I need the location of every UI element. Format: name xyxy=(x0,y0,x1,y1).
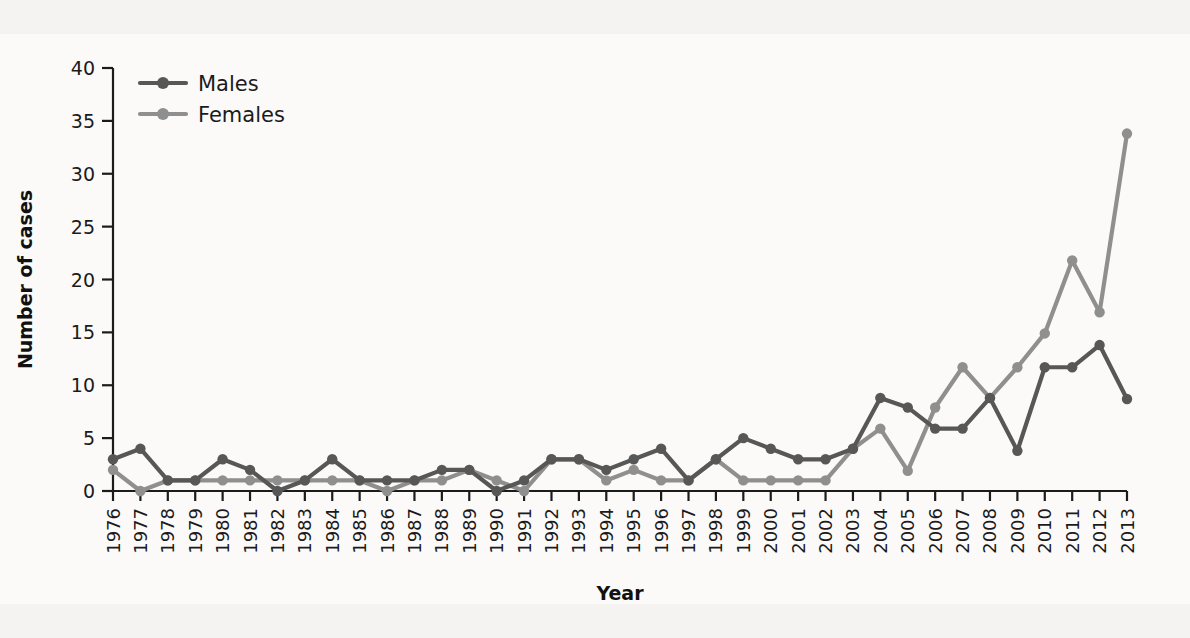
data-point xyxy=(1040,328,1050,338)
legend-entry-females[interactable]: Females xyxy=(140,103,285,127)
x-tick-label: 2000 xyxy=(760,508,781,554)
data-point xyxy=(327,454,337,464)
x-axis-title: Year xyxy=(595,582,644,604)
data-point xyxy=(272,486,282,496)
x-tick-label: 1986 xyxy=(377,508,398,554)
data-point xyxy=(656,475,666,485)
data-point xyxy=(437,465,447,475)
data-point xyxy=(546,454,556,464)
x-tick-label: 1980 xyxy=(212,508,233,554)
data-point xyxy=(848,444,858,454)
data-point xyxy=(601,465,611,475)
x-tick-label: 1994 xyxy=(596,508,617,554)
x-tick-label: 2012 xyxy=(1089,508,1110,554)
x-tick-label: 1990 xyxy=(486,508,507,554)
y-tick-label: 0 xyxy=(83,480,95,502)
data-point xyxy=(437,475,447,485)
x-tick-label: 2011 xyxy=(1062,508,1083,554)
data-point xyxy=(793,454,803,464)
y-axis-title: Number of cases xyxy=(14,190,36,369)
legend-entry-males[interactable]: Males xyxy=(140,72,259,96)
data-point xyxy=(382,475,392,485)
data-point xyxy=(930,423,940,433)
legend-label: Females xyxy=(198,103,285,127)
data-point xyxy=(217,475,227,485)
legend-label: Males xyxy=(198,72,259,96)
legend-swatch-dot xyxy=(157,77,169,89)
data-point xyxy=(1012,362,1022,372)
data-point xyxy=(382,486,392,496)
data-point xyxy=(903,466,913,476)
data-point xyxy=(957,362,967,372)
data-point xyxy=(108,454,118,464)
x-tick-label: 1996 xyxy=(651,508,672,554)
x-tick-label: 2001 xyxy=(788,508,809,554)
x-tick-label: 1978 xyxy=(157,508,178,554)
y-tick-label: 25 xyxy=(71,216,95,238)
data-point xyxy=(491,486,501,496)
data-point xyxy=(930,402,940,412)
x-tick-label: 1977 xyxy=(130,508,151,554)
y-tick-label: 10 xyxy=(71,374,95,396)
series-line-females xyxy=(113,134,1127,491)
x-tick-label: 2013 xyxy=(1117,508,1138,554)
data-point xyxy=(1122,394,1132,404)
data-point xyxy=(1094,340,1104,350)
data-point xyxy=(875,393,885,403)
data-point xyxy=(766,475,776,485)
x-tick-label: 2006 xyxy=(925,508,946,554)
data-point xyxy=(1012,446,1022,456)
x-tick-label: 1999 xyxy=(733,508,754,554)
x-tick-label: 1991 xyxy=(514,508,535,554)
x-tick-label: 1992 xyxy=(541,508,562,554)
data-point xyxy=(108,465,118,475)
x-tick-label: 2002 xyxy=(815,508,836,554)
x-tick-label: 1979 xyxy=(185,508,206,554)
x-tick-label: 1995 xyxy=(623,508,644,554)
data-point xyxy=(190,475,200,485)
data-point xyxy=(738,475,748,485)
x-tick-label: 2010 xyxy=(1034,508,1055,554)
y-tick-label: 40 xyxy=(71,57,95,79)
x-tick-label: 1997 xyxy=(678,508,699,554)
data-point xyxy=(519,486,529,496)
data-point xyxy=(1040,362,1050,372)
x-tick-label: 1993 xyxy=(568,508,589,554)
data-point xyxy=(300,475,310,485)
data-point xyxy=(1067,255,1077,265)
x-tick-label: 1985 xyxy=(349,508,370,554)
data-point xyxy=(957,423,967,433)
data-point xyxy=(574,454,584,464)
x-tick-label: 1998 xyxy=(705,508,726,554)
data-point xyxy=(875,423,885,433)
chart-figure: 0510152025303540197619771978197919801981… xyxy=(0,0,1190,638)
series-females xyxy=(108,128,1132,496)
data-point xyxy=(464,465,474,475)
x-tick-label: 1976 xyxy=(103,508,124,554)
data-point xyxy=(601,475,611,485)
data-point xyxy=(766,444,776,454)
x-tick-label: 1984 xyxy=(322,508,343,554)
x-tick-label: 2007 xyxy=(952,508,973,554)
data-point xyxy=(163,475,173,485)
x-tick-label: 2004 xyxy=(870,508,891,554)
data-point xyxy=(272,475,282,485)
data-point xyxy=(793,475,803,485)
data-point xyxy=(711,454,721,464)
y-tick-label: 15 xyxy=(71,321,95,343)
data-point xyxy=(245,465,255,475)
data-point xyxy=(327,475,337,485)
x-tick-label: 2009 xyxy=(1007,508,1028,554)
data-point xyxy=(629,465,639,475)
y-tick-label: 20 xyxy=(71,269,95,291)
x-tick-label: 1981 xyxy=(240,508,261,554)
data-point xyxy=(519,475,529,485)
x-tick-label: 1987 xyxy=(404,508,425,554)
data-point xyxy=(1067,362,1077,372)
data-point xyxy=(135,444,145,454)
y-tick-label: 5 xyxy=(83,427,95,449)
x-tick-label: 1983 xyxy=(294,508,315,554)
data-point xyxy=(903,402,913,412)
line-chart: 0510152025303540197619771978197919801981… xyxy=(0,0,1190,638)
data-point xyxy=(985,393,995,403)
